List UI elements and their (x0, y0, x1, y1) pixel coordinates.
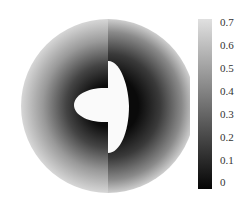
colorbar-tick-0.5: 0.5 (220, 63, 234, 74)
colorbar-tick-0.4: 0.4 (220, 86, 234, 97)
colorbar-tick-0.3: 0.3 (220, 109, 234, 120)
colorbar-tick-0.6: 0.6 (220, 40, 234, 51)
contour-plot (0, 0, 190, 204)
colorbar-tick-0: 0 (220, 177, 226, 188)
colorbar-tick-0.7: 0.7 (220, 17, 234, 28)
colorbar-tick-0.1: 0.1 (220, 155, 234, 166)
colorbar-tick-0.2: 0.2 (220, 132, 234, 143)
colorbar (198, 19, 212, 189)
